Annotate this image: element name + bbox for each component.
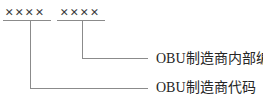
- underline-internal-code: [57, 20, 105, 21]
- symbol-group-manufacturer-code: ××××: [5, 4, 45, 20]
- underline-manufacturer-code: [3, 20, 51, 21]
- obu-code-structure-diagram: ×××× ×××× OBU制造商内部编码 OBU制造商代码: [0, 0, 263, 101]
- symbol-group-internal-code: ××××: [60, 4, 100, 20]
- label-internal-code: OBU制造商内部编码: [156, 52, 263, 66]
- label-manufacturer-code: OBU制造商代码: [156, 81, 256, 95]
- leader-line-vertical-internal-code: [82, 21, 83, 58]
- leader-line-horizontal-internal-code: [82, 58, 148, 59]
- leader-line-vertical-manufacturer-code: [30, 21, 31, 88]
- leader-line-horizontal-manufacturer-code: [30, 88, 148, 89]
